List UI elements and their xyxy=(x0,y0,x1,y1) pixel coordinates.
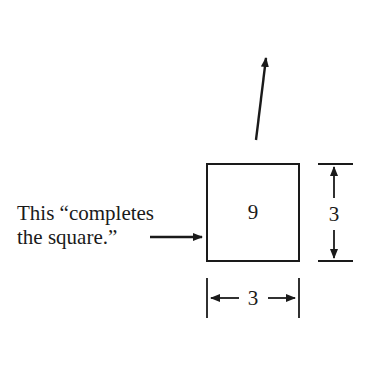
up-arrow xyxy=(256,58,266,140)
square-area-label: 9 xyxy=(243,200,263,224)
caption-line-2: the square.” xyxy=(17,225,117,249)
width-label: 3 xyxy=(243,286,263,310)
height-label: 3 xyxy=(324,202,344,226)
caption-line-1: This “completes xyxy=(17,201,154,225)
diagram-canvas xyxy=(0,0,378,368)
